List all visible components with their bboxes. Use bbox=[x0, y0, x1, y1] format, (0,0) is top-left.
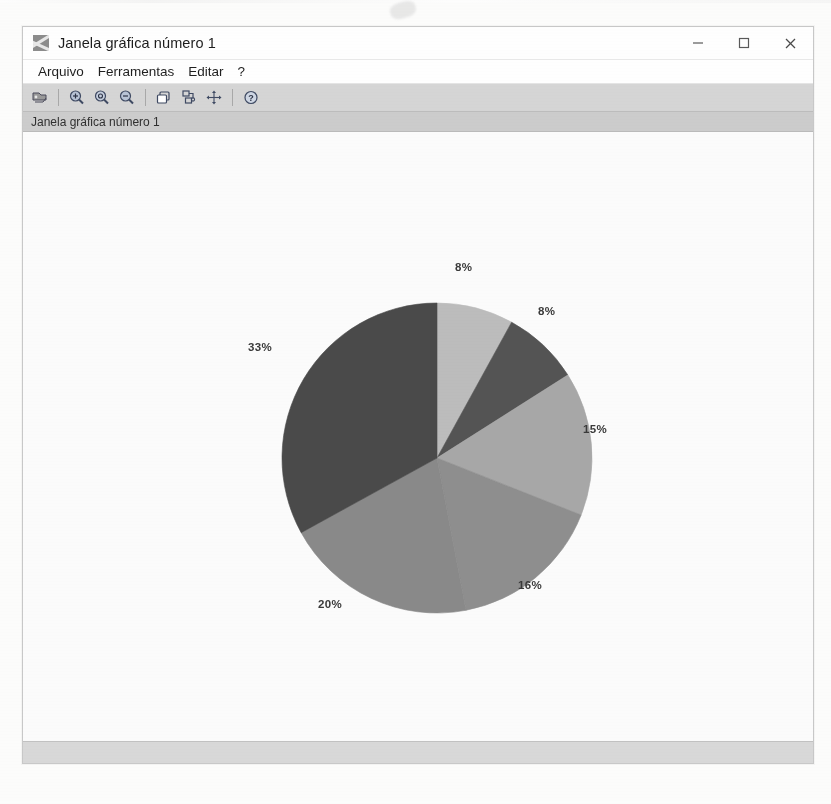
pie-slice-label: 20% bbox=[318, 598, 342, 610]
pie-slice-label: 8% bbox=[538, 305, 555, 317]
menu-bar: Arquivo Ferramentas Editar ? bbox=[23, 60, 813, 84]
menu-arquivo[interactable]: Arquivo bbox=[31, 64, 91, 79]
graphics-canvas[interactable]: 8%8%15%16%20%33% bbox=[23, 132, 813, 741]
scan-smudge bbox=[388, 0, 417, 21]
maximize-button[interactable] bbox=[721, 27, 767, 59]
pan-move-button[interactable] bbox=[202, 86, 226, 109]
pie-slice-label: 16% bbox=[518, 579, 542, 591]
copy-figure-button[interactable] bbox=[152, 86, 176, 109]
toolbar: ? bbox=[23, 84, 813, 112]
rotate-button[interactable] bbox=[177, 86, 201, 109]
pie-slice-label: 8% bbox=[455, 261, 472, 273]
svg-text:?: ? bbox=[248, 93, 254, 103]
export-image-button[interactable] bbox=[28, 86, 52, 109]
pie-slice-label: 15% bbox=[583, 423, 607, 435]
zoom-in-button[interactable] bbox=[65, 86, 89, 109]
zoom-out-button[interactable] bbox=[115, 86, 139, 109]
toolbar-separator bbox=[145, 89, 146, 106]
close-button[interactable] bbox=[767, 27, 813, 59]
menu-editar[interactable]: Editar bbox=[181, 64, 230, 79]
title-bar: Janela gráfica número 1 bbox=[23, 27, 813, 60]
scilab-graph-icon bbox=[33, 35, 49, 51]
pie-chart-svg bbox=[23, 132, 813, 741]
scan-edge bbox=[0, 0, 831, 3]
help-button[interactable]: ? bbox=[239, 86, 263, 109]
figure-tab-strip[interactable]: Janela gráfica número 1 bbox=[23, 112, 813, 132]
toolbar-separator bbox=[58, 89, 59, 106]
window-controls bbox=[675, 27, 813, 59]
menu-ferramentas[interactable]: Ferramentas bbox=[91, 64, 182, 79]
window-title: Janela gráfica número 1 bbox=[58, 35, 216, 51]
zoom-original-button[interactable] bbox=[90, 86, 114, 109]
figure-tab-label: Janela gráfica número 1 bbox=[31, 115, 160, 129]
pie-chart: 8%8%15%16%20%33% bbox=[23, 132, 813, 741]
toolbar-separator bbox=[232, 89, 233, 106]
status-bar bbox=[23, 741, 813, 763]
pie-slices bbox=[282, 303, 592, 613]
graphics-window: Janela gráfica número 1 Arquivo Ferramen… bbox=[22, 26, 814, 764]
pie-slice-label: 33% bbox=[248, 341, 272, 353]
minimize-button[interactable] bbox=[675, 27, 721, 59]
menu-help[interactable]: ? bbox=[231, 64, 253, 79]
